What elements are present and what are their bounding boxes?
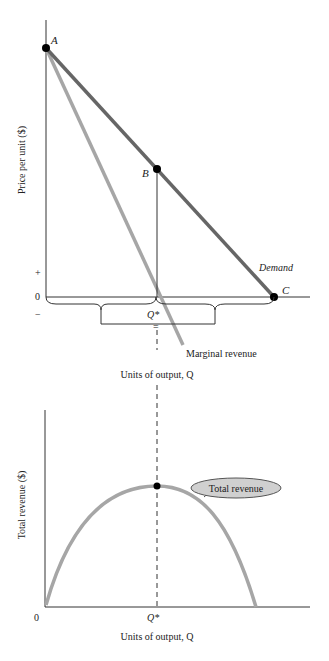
bottom-y-axis-label: Total revenue ($) (16, 471, 28, 540)
label-total-revenue: Total revenue (209, 483, 264, 494)
bottom-tick-qstar: Q* (147, 612, 159, 623)
tick-minus: − (35, 309, 41, 320)
total-revenue-curve (46, 486, 256, 607)
top-y-axis-label: Price per unit ($) (16, 126, 28, 194)
tick-qstar: Q* (147, 309, 159, 320)
demand-line (46, 48, 274, 297)
tick-zero: 0 (35, 291, 40, 302)
tr-max-dot (154, 483, 161, 490)
marginal-revenue-line (46, 48, 183, 345)
top-x-axis-label: Units of output, Q (121, 369, 195, 380)
point-b-dot (153, 165, 161, 173)
label-b: B (142, 167, 149, 179)
equals-sign: = (153, 321, 159, 332)
bottom-tick-zero: 0 (34, 612, 39, 623)
chart-canvas: A B C Demand Marginal revenue + 0 − Q* =… (0, 0, 329, 661)
label-c: C (282, 284, 290, 296)
tick-plus: + (35, 267, 41, 278)
label-a: A (50, 34, 58, 46)
right-brace (156, 297, 274, 310)
label-marginal-revenue: Marginal revenue (186, 348, 257, 359)
bottom-x-axis-label: Units of output, Q (121, 631, 195, 642)
left-brace (46, 297, 156, 310)
point-a-dot (42, 44, 50, 52)
label-demand: Demand (258, 262, 294, 273)
